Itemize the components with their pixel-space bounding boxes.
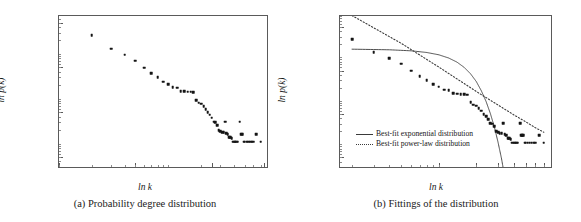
data-point [487, 118, 490, 121]
y-axis-minor-tick [339, 131, 342, 132]
y-axis-minor-tick [339, 124, 342, 125]
x-axis-minor-tick [261, 165, 262, 168]
data-point [162, 80, 165, 83]
panel-b-legend: Best-fit exponential distribution Best-f… [356, 129, 473, 149]
data-point [538, 134, 541, 137]
data-point [167, 83, 170, 86]
data-point [443, 88, 446, 91]
y-axis-minor-tick [58, 103, 61, 104]
data-point [522, 134, 525, 137]
y-axis-minor-tick [58, 77, 61, 78]
y-axis-minor-tick [58, 19, 61, 20]
x-axis-minor-tick [267, 165, 268, 168]
x-axis-minor-tick [476, 165, 477, 168]
data-point [388, 57, 391, 60]
y-axis-minor-tick [339, 154, 342, 155]
x-axis-minor-tick [535, 165, 536, 168]
y-axis-minor-tick [58, 112, 61, 113]
y-axis-minor-tick [58, 54, 61, 55]
data-point [452, 92, 455, 95]
data-point [124, 54, 127, 57]
data-point [466, 93, 469, 96]
data-point [400, 63, 403, 66]
data-point [204, 108, 207, 111]
x-axis-minor-tick [144, 165, 145, 168]
data-point [156, 76, 159, 79]
legend-line-dotted-icon [356, 142, 373, 147]
y-axis-minor-tick [339, 44, 342, 45]
y-axis-minor-tick [58, 56, 61, 57]
y-axis-minor-tick [339, 88, 342, 89]
data-point [252, 140, 255, 143]
x-axis-minor-tick [411, 165, 412, 168]
y-axis-minor-tick [58, 64, 61, 65]
y-axis-minor-tick [339, 149, 342, 150]
x-axis-minor-tick [439, 165, 440, 168]
panel-b-caption: (b) Fittings of the distribution [291, 198, 581, 209]
x-axis-minor-tick [163, 165, 164, 168]
x-axis-tick [264, 163, 265, 168]
data-point [255, 133, 258, 136]
x-axis-minor-tick [427, 165, 428, 168]
figure-container: ln p(k) 0.50000.05000.00500.0005152575 l… [0, 0, 581, 222]
panel-a-x-axis-title: ln k [0, 182, 290, 192]
x-axis-minor-tick [352, 165, 353, 168]
y-axis-minor-tick [58, 72, 61, 73]
data-point [432, 83, 435, 86]
data-point [183, 90, 186, 93]
y-axis-minor-tick [58, 130, 61, 131]
y-axis-minor-tick [339, 16, 342, 17]
data-point [238, 120, 241, 123]
y-axis-minor-tick [58, 154, 61, 155]
x-axis-minor-tick [92, 165, 93, 168]
y-axis-minor-tick [58, 33, 61, 34]
x-axis-minor-tick [544, 165, 545, 168]
data-point [236, 140, 239, 143]
legend-label-power-law: Best-fit power-law distribution [376, 139, 470, 149]
y-axis-minor-tick [339, 67, 342, 68]
data-point [216, 124, 219, 127]
y-axis-minor-tick [339, 111, 342, 112]
y-axis-minor-tick [339, 157, 342, 158]
y-axis-minor-tick [58, 85, 61, 86]
data-point [143, 66, 146, 69]
x-axis-tick [212, 163, 213, 168]
data-point [516, 141, 519, 144]
x-axis-minor-tick [168, 165, 169, 168]
y-axis-minor-tick [339, 103, 342, 104]
y-axis-minor-tick [58, 122, 61, 123]
x-axis-minor-tick [59, 165, 60, 168]
x-axis-minor-tick [234, 165, 235, 168]
legend-label-exponential: Best-fit exponential distribution [376, 129, 473, 139]
y-axis-minor-tick [339, 71, 342, 72]
y-axis-minor-tick [339, 151, 342, 152]
data-point [210, 116, 213, 119]
y-axis-minor-tick [339, 75, 342, 76]
x-axis-minor-tick [498, 165, 499, 168]
y-axis-minor-tick [58, 27, 61, 28]
x-axis-minor-tick [253, 165, 254, 168]
y-axis-minor-tick [339, 146, 342, 147]
y-axis-minor-tick [58, 40, 61, 41]
data-point [447, 89, 450, 92]
legend-item-exponential: Best-fit exponential distribution [356, 129, 473, 139]
data-point [150, 72, 153, 75]
panel-a-data-points [59, 16, 267, 167]
y-axis-minor-tick [339, 21, 342, 22]
x-axis-minor-tick [526, 165, 527, 168]
y-axis-minor-tick [339, 64, 342, 65]
data-point [456, 93, 459, 96]
data-point [192, 91, 195, 94]
data-point [241, 133, 244, 136]
y-axis-minor-tick [58, 151, 61, 152]
y-axis-minor-tick [58, 146, 61, 147]
y-axis-minor-tick [58, 67, 61, 68]
panel-b: ln p(k) Best-fit exponential distributio… [291, 0, 581, 222]
x-axis-minor-tick [401, 165, 402, 168]
data-point [543, 141, 546, 144]
y-axis-minor-tick [339, 18, 342, 19]
y-axis-minor-tick [339, 162, 342, 163]
y-axis-minor-tick [339, 62, 342, 63]
y-axis-minor-tick [58, 117, 61, 118]
data-point [230, 137, 233, 140]
